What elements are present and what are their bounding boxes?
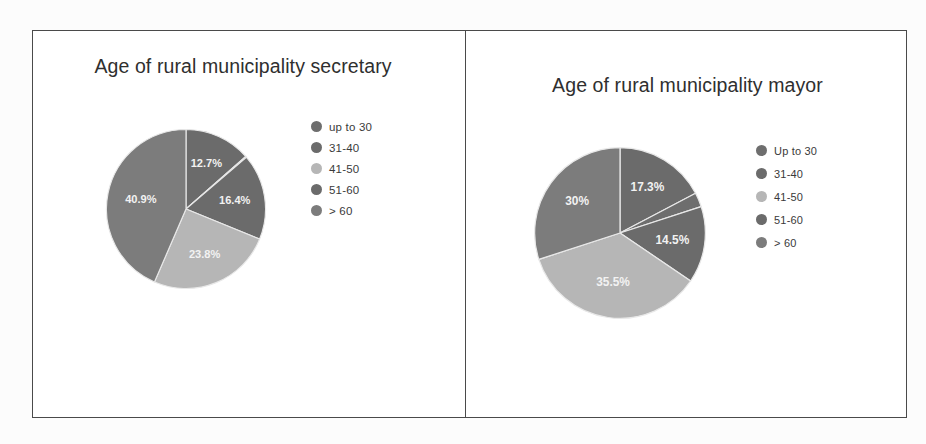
legend-item-31-40[interactable]: 31-40 [756, 162, 817, 185]
legend-swatch-up-to-30 [756, 145, 767, 156]
chart-panel-secretary: Age of rural municipality secretary 12.7… [33, 31, 465, 417]
pie-slice-label-secretary-0: 12.7% [191, 157, 223, 169]
legend-item-up-to-30[interactable]: Up to 30 [756, 139, 817, 162]
legend-item-41-50[interactable]: 41-50 [311, 158, 372, 179]
legend-label-up-to-30: up to 30 [329, 121, 372, 133]
pie-slice-label-mayor-4: 30% [565, 194, 589, 208]
legend-label-51-60: 51-60 [329, 184, 359, 196]
chart-title-mayor: Age of rural municipality mayor [467, 74, 908, 97]
legend-swatch-over-60 [756, 237, 767, 248]
pie-slice-label-secretary-4: 40.9% [125, 193, 157, 205]
legend-item-31-40[interactable]: 31-40 [311, 137, 372, 158]
legend-label-up-to-30: Up to 30 [774, 145, 817, 157]
legend-swatch-51-60 [756, 214, 767, 225]
legend-label-over-60: > 60 [329, 205, 353, 217]
pie-chart-mayor: 17.3%14.5%35.5%30% [532, 145, 708, 321]
legend-swatch-51-60 [311, 184, 322, 195]
legend-item-over-60[interactable]: > 60 [756, 231, 817, 254]
legend-label-31-40: 31-40 [329, 142, 359, 154]
legend-swatch-41-50 [756, 191, 767, 202]
legend-swatch-31-40 [311, 142, 322, 153]
pie-slice-label-mayor-3: 35.5% [596, 275, 630, 289]
legend-swatch-up-to-30 [311, 121, 322, 132]
legend-label-over-60: > 60 [774, 237, 797, 249]
legend-label-31-40: 31-40 [774, 168, 803, 180]
pie-slice-label-mayor-0: 17.3% [631, 180, 665, 194]
legend-swatch-41-50 [311, 163, 322, 174]
legend-label-41-50: 41-50 [329, 163, 359, 175]
pie-svg-secretary: 12.7%16.4%23.8%40.9% [104, 127, 268, 291]
legend-item-51-60[interactable]: 51-60 [756, 208, 817, 231]
chart-panel-mayor: Age of rural municipality mayor 17.3%14.… [466, 31, 907, 417]
legend-swatch-31-40 [756, 168, 767, 179]
legend-label-51-60: 51-60 [774, 214, 803, 226]
legend-item-41-50[interactable]: 41-50 [756, 185, 817, 208]
chart-title-secretary: Age of rural municipality secretary [27, 55, 459, 78]
legend-secretary: up to 30 31-40 41-50 51-60 > 60 [311, 116, 372, 221]
pie-slice-label-mayor-2: 14.5% [656, 233, 690, 247]
legend-mayor: Up to 30 31-40 41-50 51-60 > 60 [756, 139, 817, 254]
legend-label-41-50: 41-50 [774, 191, 803, 203]
legend-item-over-60[interactable]: > 60 [311, 200, 372, 221]
pie-slice-label-secretary-2: 16.4% [219, 194, 251, 206]
legend-item-up-to-30[interactable]: up to 30 [311, 116, 372, 137]
pie-slices-secretary [106, 129, 265, 288]
legend-swatch-over-60 [311, 205, 322, 216]
pie-slice-label-secretary-3: 23.8% [189, 248, 221, 260]
legend-item-51-60[interactable]: 51-60 [311, 179, 372, 200]
figure-frame: Age of rural municipality secretary 12.7… [32, 30, 907, 418]
pie-svg-mayor: 17.3%14.5%35.5%30% [532, 145, 708, 321]
pie-chart-secretary: 12.7%16.4%23.8%40.9% [104, 127, 268, 291]
